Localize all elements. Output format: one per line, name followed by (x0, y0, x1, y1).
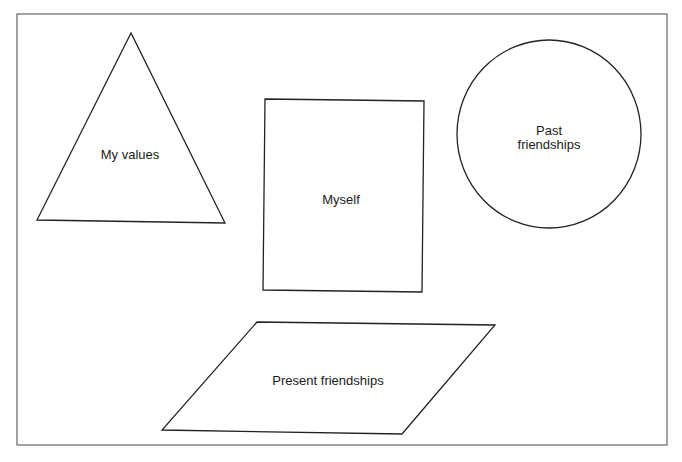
circle-label-line1: Past (536, 123, 562, 138)
diagram-canvas: My values Myself Past friendships Presen… (0, 0, 682, 462)
parallelogram-label: Present friendships (272, 373, 384, 388)
rectangle-label: Myself (322, 192, 360, 207)
parallelogram-shape: Present friendships (162, 322, 495, 434)
circle-label-line2: friendships (518, 137, 581, 152)
triangle-shape: My values (37, 33, 225, 223)
circle-shape: Past friendships (457, 40, 641, 228)
rectangle-shape: Myself (263, 99, 424, 292)
triangle-label: My values (101, 147, 160, 162)
